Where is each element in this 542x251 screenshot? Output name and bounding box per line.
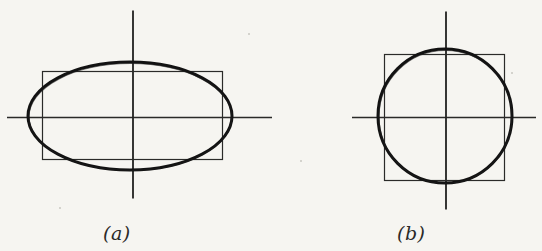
figure-page: (a) (b) bbox=[0, 0, 542, 251]
paper-speck bbox=[248, 33, 250, 35]
paper-speck bbox=[300, 160, 302, 162]
figure-caption-b: (b) bbox=[397, 222, 426, 244]
paper-speck bbox=[511, 72, 513, 74]
panel-b bbox=[352, 12, 536, 210]
panel-a bbox=[7, 11, 272, 199]
geometry-figure-canvas bbox=[0, 0, 542, 251]
paper-speck bbox=[59, 207, 61, 209]
figure-caption-a: (a) bbox=[103, 222, 131, 244]
